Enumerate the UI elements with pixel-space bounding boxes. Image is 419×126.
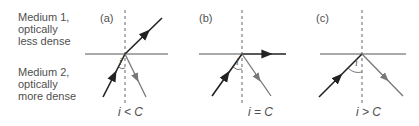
panel-b-angle-arc	[233, 67, 242, 70]
panel-a-refracted-ray	[125, 18, 162, 54]
panel-a-tag: (a)	[100, 12, 113, 24]
panel-a-refracted-arrow	[144, 34, 146, 36]
panel-b-angle-label: i	[236, 56, 239, 67]
panel-a-incident-arrow	[113, 76, 115, 79]
panel-c-reflected-arrow	[383, 76, 386, 79]
panel-c-angle-label: i	[355, 57, 358, 68]
panel-a-angle-arc	[119, 67, 126, 69]
panel-a-condition: i < C	[118, 105, 143, 119]
ray-diagram: (a) i i < C (b) i i = C (c)	[0, 0, 419, 126]
panel-b-tag: (b)	[199, 12, 212, 24]
panel-c-reflected-ray	[362, 54, 403, 96]
panel-b-incident-arrow	[225, 76, 227, 79]
panel-c-tag: (c)	[316, 12, 329, 24]
panel-c-angle-arc	[348, 68, 362, 73]
panel-b: (b) i i = C	[199, 10, 286, 119]
panel-a-reflected-arrow	[135, 75, 137, 78]
panel-c-incident-arrow	[336, 78, 339, 81]
panel-c: (c) i i > C	[316, 10, 406, 119]
panel-b-condition: i = C	[248, 105, 273, 119]
panel-a-angle-label: i	[119, 56, 122, 67]
panel-c-condition: i > C	[356, 105, 381, 119]
panel-b-reflected-arrow	[256, 75, 258, 78]
panel-a: (a) i i < C	[85, 10, 168, 119]
